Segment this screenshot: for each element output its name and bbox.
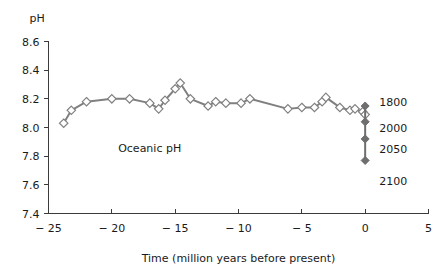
series-point-marker xyxy=(125,95,133,103)
projection-year-label: 1800 xyxy=(379,96,407,109)
y-tick-label: 7.6 xyxy=(22,179,40,192)
series-point-marker xyxy=(204,102,212,110)
chart-canvas: 8.68.48.28.07.87.67.4 − 25− 20− 15− 10− … xyxy=(0,0,445,278)
series-point-marker xyxy=(60,119,68,127)
chart-text-labels: pHTime (million years before present)Oce… xyxy=(30,12,408,265)
projection-point-marker xyxy=(361,118,369,126)
series-point-marker xyxy=(246,95,254,103)
y-tick-label: 8.6 xyxy=(22,36,40,49)
series-point-marker xyxy=(222,99,230,107)
projection-year-label: 2100 xyxy=(379,175,407,188)
y-tick-label: 7.8 xyxy=(22,150,40,163)
series-annotation-oceanic-ph: Oceanic pH xyxy=(118,142,181,155)
oceanic-ph-chart: 8.68.48.28.07.87.67.4 − 25− 20− 15− 10− … xyxy=(0,0,445,278)
x-tick-label: − 15 xyxy=(162,222,189,235)
projection-year-label: 2050 xyxy=(379,143,407,156)
y-axis: 8.68.48.28.07.87.67.4 xyxy=(22,36,49,221)
x-tick-label: − 25 xyxy=(35,222,62,235)
y-tick-label: 8.4 xyxy=(22,64,40,77)
y-tick-label: 7.4 xyxy=(22,208,40,221)
projection-point-marker xyxy=(361,135,369,143)
series-point-marker xyxy=(298,103,306,111)
series-point-marker xyxy=(108,95,116,103)
x-tick-label: − 10 xyxy=(225,222,252,235)
x-tick-label: − 5 xyxy=(292,222,312,235)
x-tick-label: 5 xyxy=(425,222,432,235)
series-point-marker xyxy=(237,99,245,107)
x-axis: − 25− 20− 15− 10− 505 xyxy=(35,209,432,235)
series-point-marker xyxy=(82,98,90,106)
y-axis-title: pH xyxy=(30,12,45,25)
x-tick-label: 0 xyxy=(362,222,369,235)
projection-year-label: 2000 xyxy=(379,122,407,135)
y-tick-label: 8.2 xyxy=(22,93,40,106)
series-point-marker xyxy=(212,98,220,106)
series-point-marker xyxy=(284,105,292,113)
x-axis-title: Time (million years before present) xyxy=(141,252,336,265)
x-tick-label: − 20 xyxy=(98,222,125,235)
projection-point-marker xyxy=(361,156,369,164)
series-point-marker xyxy=(67,106,75,114)
data-series-oceanic-ph xyxy=(60,79,370,128)
y-tick-label: 8.0 xyxy=(22,122,40,135)
